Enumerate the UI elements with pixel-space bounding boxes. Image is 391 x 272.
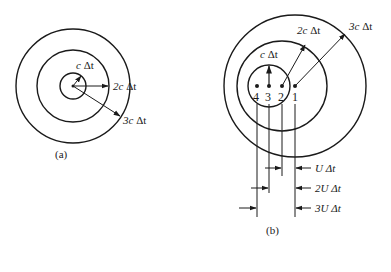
figure-b: 4 3 2 1 c Δt 2c Δt 3c Δt U Δt 2U Δt 3U Δ…: [224, 15, 372, 237]
figure-a: c Δt 2c Δt 3c Δt (a): [16, 29, 146, 161]
caption-b: (b): [266, 224, 279, 237]
point-label-1: 1: [292, 90, 298, 104]
label-u-dt: U Δt: [315, 162, 336, 174]
radius-arrow-b3: [295, 34, 345, 86]
point-label-2: 2: [278, 90, 284, 104]
label-2u-dt: 2U Δt: [315, 182, 342, 194]
wavefront-diagram: c Δt 2c Δt 3c Δt (a) 4 3 2 1 c Δt 2c Δt …: [0, 0, 391, 272]
point-label-4: 4: [253, 90, 259, 104]
label-2c-dt: 2c Δt: [113, 80, 136, 92]
label-b-2c-dt: 2c Δt: [297, 24, 320, 36]
radius-arrow-1: [73, 76, 81, 86]
source-point-4: [255, 84, 259, 88]
label-b-c-dt: c Δt: [260, 48, 278, 60]
label-3u-dt: 3U Δt: [314, 202, 342, 214]
label-b-3c-dt: 3c Δt: [348, 20, 372, 32]
label-3c-dt: 3c Δt: [122, 114, 146, 126]
point-label-3: 3: [265, 90, 271, 104]
label-c-dt: c Δt: [76, 59, 94, 71]
caption-a: (a): [55, 148, 68, 161]
